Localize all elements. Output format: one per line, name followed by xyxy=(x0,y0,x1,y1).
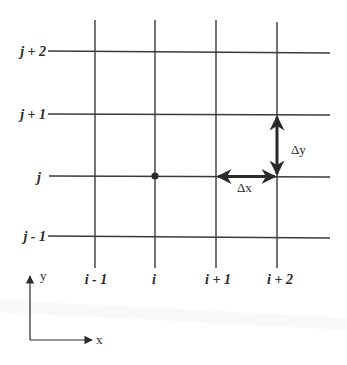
vertical-grid-lines xyxy=(95,20,277,268)
finite-difference-grid-diagram: Δx Δy j + 2 j + 1 j j - 1 i - 1 i i + 1 … xyxy=(0,0,347,365)
grid-line-row-j-minus-1 xyxy=(48,236,330,238)
y-axis-label: y xyxy=(40,268,47,283)
delta-x-label: Δx xyxy=(237,180,252,195)
row-label-j-minus-1: j - 1 xyxy=(21,229,46,244)
col-label-i-plus-1: i + 1 xyxy=(205,272,231,287)
column-labels: i - 1 i i + 1 i + 2 xyxy=(85,272,293,287)
col-label-i: i xyxy=(152,272,156,287)
delta-y-label: Δy xyxy=(291,142,306,157)
row-label-j-plus-1: j + 1 xyxy=(18,107,46,122)
row-label-j-plus-2: j + 2 xyxy=(18,44,46,59)
horizontal-grid-lines xyxy=(48,51,330,238)
grid-node-dot xyxy=(151,172,158,179)
x-axis-label: x xyxy=(96,332,103,347)
col-label-i-plus-2: i + 2 xyxy=(267,272,293,287)
grid-line-row-j-plus-1 xyxy=(48,114,330,115)
grid-line-row-j-plus-2 xyxy=(48,51,330,53)
row-label-j: j xyxy=(35,170,41,185)
grid-line-row-j xyxy=(49,176,330,177)
scan-artifact xyxy=(0,300,347,330)
row-labels: j + 2 j + 1 j j - 1 xyxy=(18,44,46,244)
col-label-i-minus-1: i - 1 xyxy=(85,272,108,287)
